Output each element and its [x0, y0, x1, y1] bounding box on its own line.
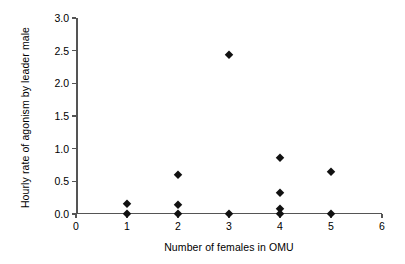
data-point-marker: [122, 200, 131, 209]
x-axis-tick-label: 5: [328, 220, 334, 232]
y-axis-tick: [72, 148, 76, 150]
data-point-marker: [224, 209, 233, 218]
x-axis-tick-label: 3: [226, 220, 232, 232]
y-axis-tick: [72, 17, 76, 19]
data-point-marker: [275, 153, 284, 162]
x-axis-tick-label: 0: [73, 220, 79, 232]
y-axis-tick-label: 3.0: [54, 12, 69, 24]
x-axis-tick: [75, 214, 77, 218]
data-point-marker: [275, 209, 284, 218]
y-axis-tick-label: 0.5: [54, 175, 69, 187]
y-axis-line: [76, 18, 78, 214]
x-axis-tick-label: 4: [277, 220, 283, 232]
x-axis-tick-label: 2: [175, 220, 181, 232]
data-point-marker: [224, 50, 233, 59]
y-axis-tick: [72, 83, 76, 85]
data-point-marker: [275, 189, 284, 198]
y-axis-tick-label: 0.0: [54, 208, 69, 220]
y-axis-tick: [72, 50, 76, 52]
y-axis-tick-label: 2.0: [54, 77, 69, 89]
y-axis-tick-label: 1.5: [54, 110, 69, 122]
x-axis-tick-label: 1: [124, 220, 130, 232]
data-point-marker: [173, 209, 182, 218]
data-point-marker: [122, 209, 131, 218]
plot-area: 0.00.51.01.52.02.53.0 0123456: [76, 18, 382, 214]
data-point-marker: [326, 168, 335, 177]
y-axis-label: Hourly rate of agonism by leader male: [14, 15, 36, 220]
scatter-plot-figure: Hourly rate of agonism by leader male Nu…: [0, 0, 405, 264]
y-axis-tick-label: 1.0: [54, 143, 69, 155]
y-axis-tick: [72, 115, 76, 117]
data-point-marker: [173, 171, 182, 180]
x-axis-tick: [381, 214, 383, 218]
y-axis-tick-label: 2.5: [54, 45, 69, 57]
x-axis-label: Number of females in OMU: [76, 241, 382, 253]
data-point-marker: [173, 200, 182, 209]
y-axis-tick: [72, 181, 76, 183]
x-axis-tick-label: 6: [379, 220, 385, 232]
data-point-marker: [326, 209, 335, 218]
